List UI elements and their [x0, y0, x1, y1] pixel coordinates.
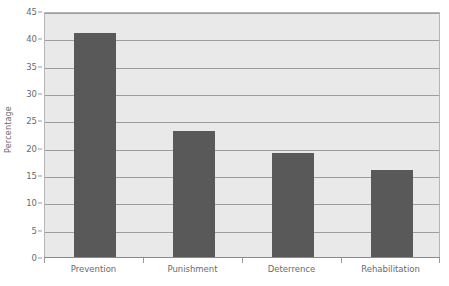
y-axis-tick-mark	[38, 66, 42, 67]
y-axis-tick-label: 0	[32, 253, 37, 263]
y-axis-tick-mark	[38, 148, 42, 149]
y-axis-tick-label: 30	[26, 89, 37, 99]
bar-chart: Percentage 051015202530354045 Prevention…	[0, 0, 449, 286]
x-axis-tick-marks	[44, 258, 440, 263]
x-axis-tick-mark	[341, 258, 342, 263]
y-axis-tick-mark	[38, 12, 42, 13]
y-axis-title-label: Percentage	[4, 105, 13, 152]
x-axis-tick-mark	[44, 258, 45, 263]
x-axis-tick-mark	[439, 258, 440, 263]
x-axis-tick-labels: PreventionPunishmentDeterrenceRehabilita…	[44, 264, 440, 282]
y-axis-tick-label: 25	[26, 116, 37, 126]
bar	[272, 153, 314, 257]
x-axis-tick-label: Rehabilitation	[361, 264, 420, 274]
y-axis-tick-label: 5	[32, 226, 37, 236]
y-axis-tick-mark	[38, 203, 42, 204]
y-axis-tick-label: 45	[26, 7, 37, 17]
x-axis-tick-mark	[242, 258, 243, 263]
bar	[173, 131, 215, 257]
plot-area	[44, 12, 440, 258]
bars-group	[45, 13, 439, 257]
bar	[74, 33, 116, 257]
x-axis-tick-mark	[143, 258, 144, 263]
y-axis-tick-mark	[38, 39, 42, 40]
y-axis-tick-label: 40	[26, 34, 37, 44]
y-axis-tick-label: 35	[26, 62, 37, 72]
x-axis-tick-label: Prevention	[71, 264, 116, 274]
y-axis-tick-mark	[38, 94, 42, 95]
bar	[371, 170, 413, 257]
y-axis-tick-mark	[38, 258, 42, 259]
y-axis-title: Percentage	[0, 0, 16, 258]
y-axis-tick-label: 15	[26, 171, 37, 181]
x-axis-tick-label: Deterrence	[268, 264, 316, 274]
y-axis-tick-label: 10	[26, 198, 37, 208]
y-axis-tick-mark	[38, 121, 42, 122]
y-axis-tick-labels: 051015202530354045	[16, 12, 42, 258]
y-axis-tick-label: 20	[26, 144, 37, 154]
x-axis-tick-label: Punishment	[167, 264, 217, 274]
y-axis-tick-mark	[38, 176, 42, 177]
y-axis-tick-mark	[38, 230, 42, 231]
